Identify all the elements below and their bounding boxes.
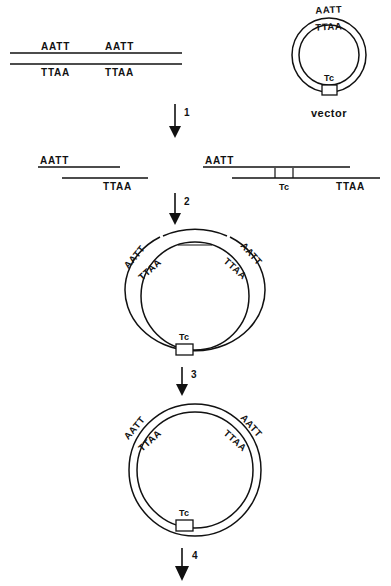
- linvector-tc-marker-label: Tc: [279, 182, 289, 192]
- ligated-outer-circle: [129, 404, 261, 536]
- vector-tc-marker-label: Tc: [324, 73, 334, 83]
- ligated-tc-marker-label: Tc: [179, 508, 189, 518]
- arrow-2-head: [169, 213, 181, 225]
- row1-linear-dna: AATT TTAA AATT TTAA: [10, 41, 182, 78]
- row2-insert-fragment: AATT TTAA: [38, 155, 148, 192]
- site1-bottom-sequence: TTAA: [41, 67, 70, 78]
- cloning-diagram-svg: AATT TTAA AATT TTAA AATT TTAA Tc vector …: [0, 0, 391, 586]
- row2-linearized-vector: AATT TTAA Tc: [203, 155, 380, 192]
- step-arrow-1: 1: [169, 104, 190, 138]
- annealed-left-bottom-sequence: TTAA: [136, 256, 163, 282]
- vector-top-sequence: AATT: [315, 3, 343, 15]
- row3-annealed-circle: AATT TTAA AATT TTAA Tc: [121, 229, 265, 355]
- annealed-tc-marker-label: Tc: [179, 332, 189, 342]
- site1-top-sequence: AATT: [41, 41, 70, 52]
- step-arrow-2: 2: [169, 193, 190, 225]
- row4-ligated-circle: AATT TTAA AATT TTAA Tc: [121, 404, 264, 536]
- step-3-number: 3: [191, 369, 197, 380]
- step-1-number: 1: [184, 107, 190, 118]
- arrow-4-head: [175, 566, 189, 581]
- linvector-top-sequence: AATT: [205, 155, 234, 166]
- step-2-number: 2: [184, 196, 190, 207]
- insert-top-sequence: AATT: [40, 155, 69, 166]
- annealed-tc-marker-box: [176, 344, 193, 355]
- arrow-1-head: [169, 126, 181, 138]
- vector-tc-marker-box: [322, 85, 337, 95]
- ligated-left-bottom-sequence: TTAA: [136, 427, 163, 453]
- insert-bottom-sequence: TTAA: [103, 181, 132, 192]
- site2-bottom-sequence: TTAA: [105, 67, 134, 78]
- arrow-3-head: [176, 384, 188, 396]
- step-4-number: 4: [192, 550, 198, 561]
- vector-bottom-sequence: TTAA: [315, 20, 343, 32]
- vector-plasmid: AATT TTAA Tc vector: [292, 3, 366, 119]
- step-arrow-4: 4: [175, 548, 198, 581]
- annealed-outer-arc-top: [163, 229, 227, 236]
- diagram-canvas: AATT TTAA AATT TTAA AATT TTAA Tc vector …: [0, 0, 391, 586]
- step-arrow-3: 3: [176, 367, 197, 396]
- ligated-tc-marker-box: [176, 520, 193, 531]
- vector-caption: vector: [311, 107, 347, 119]
- annealed-right-top-sequence: AATT: [238, 240, 264, 267]
- site2-top-sequence: AATT: [105, 41, 134, 52]
- annealed-outer-arc-main: [125, 237, 265, 351]
- linvector-bottom-sequence: TTAA: [336, 181, 365, 192]
- ligated-right-bottom-sequence: TTAA: [222, 427, 249, 453]
